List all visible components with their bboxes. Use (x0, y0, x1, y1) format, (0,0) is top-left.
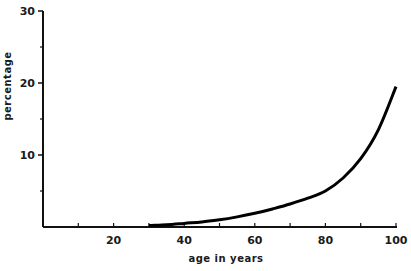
x-tick-label: 80 (318, 234, 334, 247)
x-tick-label: 60 (247, 234, 263, 247)
x-axis: 20406080100 age in years (43, 223, 408, 264)
x-tick-label: 20 (106, 234, 122, 247)
data-series (149, 87, 396, 226)
y-tick-label: 30 (20, 5, 36, 18)
x-axis-title: age in years (188, 253, 263, 264)
y-axis: 102030 percentage (2, 5, 43, 227)
y-tick-label: 20 (20, 77, 36, 90)
y-axis-title: percentage (2, 51, 13, 120)
line-chart: 102030 percentage 20406080100 age in yea… (0, 0, 411, 271)
y-tick-label: 10 (20, 149, 36, 162)
x-tick-label: 100 (385, 234, 408, 247)
y-ticks: 102030 (20, 5, 43, 191)
x-tick-label: 40 (177, 234, 193, 247)
series-line (149, 87, 396, 226)
